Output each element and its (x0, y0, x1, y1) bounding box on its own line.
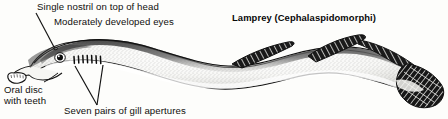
gill-apertures (74, 55, 101, 63)
label-oral-disc-line2: with teeth (4, 95, 46, 106)
eye-pupil (57, 55, 63, 61)
label-moderately-developed-eyes: Moderately developed eyes (54, 16, 174, 27)
leader-line-gill-right (97, 65, 103, 105)
label-oral-disc-with-teeth: Oral disc with teeth (4, 84, 46, 106)
label-seven-pairs-gill-apertures: Seven pairs of gill apertures (64, 105, 186, 116)
label-single-nostril: Single nostril on top of head (37, 1, 159, 12)
eye-highlight (58, 55, 60, 57)
lamprey-body-group (8, 13, 444, 108)
lamprey-figure: Lamprey (Cephalaspidomorphi) Single nost… (0, 0, 448, 119)
label-oral-disc-line1: Oral disc (4, 84, 43, 95)
leader-line-nostril (36, 13, 54, 47)
leader-line-gill-left (75, 66, 97, 105)
figure-title: Lamprey (Cephalaspidomorphi) (232, 12, 376, 23)
eye-group (55, 53, 66, 63)
